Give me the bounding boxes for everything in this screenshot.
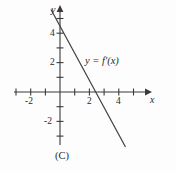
y-tick-label--2: -2 — [44, 117, 52, 127]
y-axis-label: y — [51, 5, 55, 15]
derivative-line — [51, 10, 126, 148]
x-axis-label: x — [150, 95, 154, 105]
y-tick-label-4: 4 — [50, 29, 55, 39]
x-tick-label-2: 2 — [87, 97, 92, 107]
y-axis-arrow-icon — [57, 5, 64, 12]
x-tick-label-4: 4 — [116, 97, 121, 107]
figure-panel: y x 4 2 -2 -2 2 4 y = f′(x) (C) — [0, 0, 176, 171]
curve-equation-label: y = f′(x) — [85, 56, 119, 67]
y-tick-label-2: 2 — [50, 58, 55, 68]
plot-canvas — [0, 0, 176, 171]
figure-caption: (C) — [55, 151, 69, 162]
x-tick-label--2: -2 — [25, 97, 33, 107]
x-axis — [14, 89, 152, 96]
